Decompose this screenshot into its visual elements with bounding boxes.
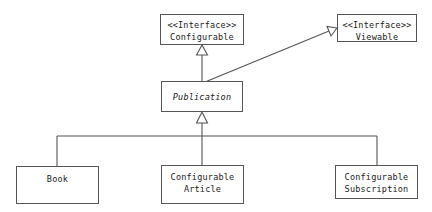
- class-name-configurable-subscription-line1: Configurable: [345, 166, 409, 183]
- uml-class-diagram: <<Interface>> Configurable <<Interface>>…: [0, 0, 432, 212]
- class-name-configurable-subscription-line2: Subscription: [345, 183, 409, 195]
- class-name-configurable: Configurable: [170, 31, 234, 43]
- class-box-configurable[interactable]: <<Interface>> Configurable: [160, 14, 244, 45]
- arrowhead-configurable: [197, 45, 208, 55]
- stereotype-label-viewable: <<Interface>>: [342, 15, 411, 31]
- class-box-configurable-article[interactable]: Configurable Article: [161, 165, 244, 204]
- class-name-configurable-article-line2: Article: [184, 183, 221, 195]
- class-box-publication[interactable]: Publication: [161, 81, 243, 112]
- class-box-configurable-subscription[interactable]: Configurable Subscription: [335, 165, 418, 199]
- stereotype-label-configurable: <<Interface>>: [167, 15, 236, 31]
- class-box-viewable[interactable]: <<Interface>> Viewable: [337, 14, 417, 42]
- arrowhead-viewable: [327, 27, 337, 37]
- class-name-book: Book: [47, 167, 68, 185]
- class-name-publication: Publication: [173, 82, 232, 103]
- class-box-book[interactable]: Book: [16, 166, 99, 204]
- arrowhead-publication: [197, 112, 208, 123]
- class-name-configurable-article-line1: Configurable: [171, 166, 235, 183]
- class-name-viewable: Viewable: [356, 31, 399, 43]
